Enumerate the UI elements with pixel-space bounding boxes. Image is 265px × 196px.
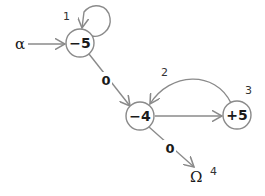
end-symbol: Ω bbox=[190, 168, 202, 186]
edge-label-1-2: 0 bbox=[101, 73, 110, 88]
state-number-1: 1 bbox=[63, 10, 70, 23]
node-3: +5 bbox=[223, 101, 251, 129]
edge-node-3-to-node-2 bbox=[150, 79, 231, 104]
node-1-label: −5 bbox=[69, 35, 90, 51]
edge-label-2-end: 0 bbox=[165, 141, 174, 156]
node-3-label: +5 bbox=[226, 107, 247, 123]
state-diagram: α 1 −5 0 2 3 −4 +5 0 Ω 4 bbox=[0, 0, 265, 196]
start-symbol: α bbox=[15, 35, 25, 53]
node-2-label: −4 bbox=[129, 108, 151, 124]
node-1: −5 bbox=[66, 29, 94, 57]
state-number-3: 3 bbox=[245, 84, 252, 97]
state-number-4: 4 bbox=[210, 165, 217, 178]
node-2: −4 bbox=[126, 102, 154, 130]
state-number-2: 2 bbox=[161, 66, 168, 79]
